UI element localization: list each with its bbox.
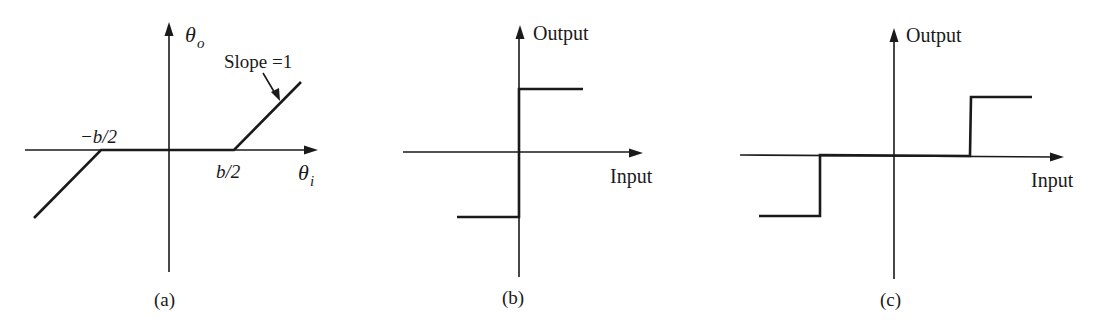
x-axis-arrow-icon [1050,153,1064,162]
x-axis-label: Input [1031,169,1074,192]
y-axis-arrow-icon [165,22,174,36]
caption-a: (a) [154,289,175,311]
x-axis-subscript: i [310,173,314,189]
y-axis-label: θ [185,22,196,47]
tick-label-neg-b-half: −b/2 [80,126,118,147]
x-axis-label: θ [298,160,309,185]
y-axis-label: Output [906,24,962,47]
x-axis-arrow-icon [304,146,318,155]
y-axis-subscript: o [197,35,205,51]
nonlinearity-figure: θ o Slope =1 −b/2 b/2 θ i (a) Output Inp… [0,0,1095,328]
y-axis-arrow-icon [890,28,899,42]
panel-c: Output Input (c) [740,24,1074,311]
y-axis-arrow-icon [516,25,525,39]
y-axis-label: Output [533,22,589,45]
caption-c: (c) [880,289,901,311]
caption-b: (b) [502,287,524,309]
panel-b: Output Input (b) [403,22,653,309]
slope-annotation: Slope =1 [224,51,292,72]
x-axis-label: Input [610,165,653,188]
relay-curve [457,89,583,217]
tick-label-b-half: b/2 [216,161,241,182]
x-axis-arrow-icon [629,149,643,158]
panel-a: θ o Slope =1 −b/2 b/2 θ i (a) [25,22,318,311]
